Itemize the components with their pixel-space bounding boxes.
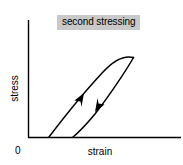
y-axis-label: stress [9, 67, 20, 111]
loading-branch-curve [49, 57, 134, 137]
loading-direction-arrow-icon [75, 93, 85, 107]
x-axis-label: strain [76, 146, 124, 157]
stress-strain-hysteresis-figure: second stressing stress strain 0 [0, 0, 183, 165]
unloading-direction-arrow-icon [95, 98, 105, 112]
annotation-label-second-stressing: second stressing [57, 15, 140, 30]
origin-tick-label: 0 [15, 145, 21, 156]
